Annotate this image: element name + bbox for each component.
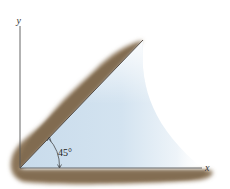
y-axis-label: y [16,15,22,26]
diagram-canvas: y x 45° [0,0,230,189]
angle-label: 45° [58,147,72,158]
x-axis-label: x [204,162,210,173]
